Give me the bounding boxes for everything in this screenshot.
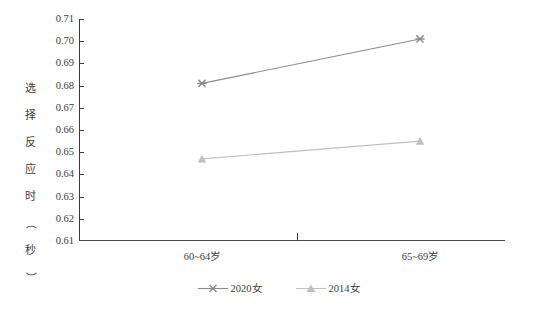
y-tick-mark — [79, 19, 84, 20]
y-tick-mark — [79, 41, 84, 42]
y-axis-title-char: 秒 — [20, 244, 40, 258]
series-2014-female — [198, 137, 424, 163]
data-point-marker — [198, 155, 206, 163]
y-tick-label: 0.69 — [44, 58, 74, 69]
y-tick-mark — [79, 174, 84, 175]
y-axis-title-char: 择 — [20, 109, 40, 123]
y-axis-title-char: 时 — [20, 190, 40, 204]
y-tick-mark — [79, 152, 84, 153]
series-2020-female — [197, 35, 424, 87]
y-tick-label: 0.63 — [44, 191, 74, 202]
y-axis-tick-labels: 0.71 0.70 0.69 0.68 0.67 0.66 0.65 0.64 … — [44, 0, 74, 312]
y-axis-title: 选 择 反 应 时 （ 秒 ） — [20, 68, 40, 298]
legend-item-2020[interactable]: 2020女 — [198, 283, 262, 294]
x-tick-label-60-64: 60~64岁 — [184, 248, 221, 263]
legend-label-2020: 2020女 — [231, 283, 262, 294]
y-axis-title-char: 选 — [20, 82, 40, 96]
data-point-marker — [415, 35, 424, 42]
y-tick-mark — [79, 108, 84, 109]
x-axis-line — [79, 240, 505, 241]
y-tick-mark — [79, 63, 84, 64]
y-axis-title-char: （ — [23, 213, 37, 233]
plot-area — [0, 0, 557, 312]
y-tick-label: 0.62 — [44, 214, 74, 225]
x-axis-tick-mark — [297, 233, 298, 241]
y-tick-mark — [79, 197, 84, 198]
y-tick-label: 0.65 — [44, 147, 74, 158]
y-tick-mark — [79, 86, 84, 87]
y-tick-label: 0.64 — [44, 169, 74, 180]
legend-item-2014[interactable]: 2014女 — [296, 283, 360, 294]
data-point-marker — [197, 80, 206, 87]
series-2014-line — [202, 141, 420, 159]
legend-label-2014: 2014女 — [329, 283, 360, 294]
triangle-marker-icon — [296, 283, 326, 294]
line-chart: 选 择 反 应 时 （ 秒 ） 0.71 0.70 0.69 0.68 0.67… — [0, 0, 557, 312]
y-tick-label: 0.68 — [44, 80, 74, 91]
series-2014-markers — [198, 137, 424, 163]
data-point-marker — [416, 137, 424, 145]
y-tick-mark — [79, 130, 84, 131]
series-2020-markers — [197, 35, 424, 87]
y-tick-label: 0.66 — [44, 125, 74, 136]
y-tick-label: 0.71 — [44, 14, 74, 25]
y-axis-title-char: 应 — [20, 163, 40, 177]
y-axis-title-char: 反 — [20, 136, 40, 150]
x-tick-label-65-69: 65~69岁 — [402, 248, 439, 263]
y-tick-label: 0.70 — [44, 36, 74, 47]
y-tick-mark — [79, 219, 84, 220]
y-tick-label: 0.67 — [44, 103, 74, 114]
series-2020-line — [202, 39, 420, 83]
chart-legend: 2020女 2014女 — [0, 283, 557, 294]
x-cross-marker-icon — [198, 283, 228, 294]
y-tick-label: 0.61 — [44, 236, 74, 247]
